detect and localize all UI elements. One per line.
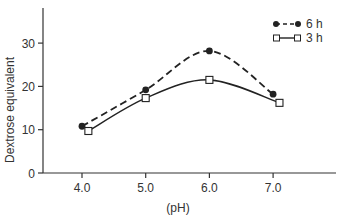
y-axis-label: Dextrose equivalent — [3, 56, 17, 163]
legend: 6 h 3 h — [273, 17, 323, 45]
filled-circle-marker-icon — [206, 47, 213, 54]
line-chart: 0102030 4.05.06.07.0 Dextrose equivalent… — [0, 0, 342, 218]
x-tick-label: 5.0 — [137, 181, 154, 195]
filled-circle-marker-icon — [142, 86, 149, 93]
open-square-marker-icon — [85, 127, 92, 134]
legend-label-6h: 6 h — [306, 17, 323, 31]
open-square-marker-icon — [206, 76, 213, 83]
x-tick-label: 7.0 — [265, 181, 282, 195]
x-axis: 4.05.06.07.0 — [43, 173, 336, 195]
y-axis: 0102030 — [22, 8, 43, 181]
x-axis-label: (pH) — [166, 201, 189, 215]
plot-area — [79, 47, 283, 134]
filled-circle-marker-icon — [295, 21, 301, 27]
filled-circle-marker-icon — [273, 21, 279, 27]
open-square-marker-icon — [274, 35, 280, 41]
x-tick-label: 4.0 — [74, 181, 91, 195]
open-square-marker-icon — [142, 95, 149, 102]
y-tick-label: 20 — [22, 80, 36, 94]
legend-item-6h: 6 h — [273, 17, 323, 31]
legend-label-3h: 3 h — [306, 31, 323, 45]
filled-circle-marker-icon — [270, 91, 277, 98]
legend-item-3h: 3 h — [274, 31, 323, 45]
open-square-marker-icon — [276, 99, 283, 106]
series-line — [88, 80, 279, 131]
y-tick-label: 0 — [28, 167, 35, 181]
open-square-marker-icon — [295, 35, 301, 41]
series-6h — [79, 47, 277, 129]
series-3h — [85, 76, 283, 134]
y-tick-label: 30 — [22, 37, 36, 51]
y-tick-label: 10 — [22, 123, 36, 137]
x-tick-label: 6.0 — [201, 181, 218, 195]
